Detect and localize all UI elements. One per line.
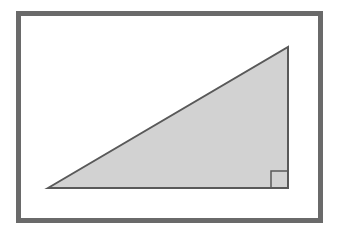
geometry-figure-svg	[0, 0, 340, 233]
figure-canvas	[0, 0, 340, 233]
